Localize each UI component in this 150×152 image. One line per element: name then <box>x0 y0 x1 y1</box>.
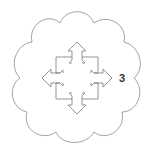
step-number-label: 3 <box>119 72 125 84</box>
move-arrows-icon <box>42 42 112 114</box>
diagram-canvas <box>0 0 150 152</box>
